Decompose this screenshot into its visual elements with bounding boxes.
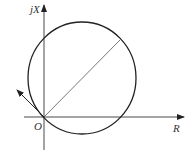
vertical-axis-label: jX	[28, 3, 41, 15]
impedance-diagram: jX R O	[0, 0, 191, 161]
chord-line	[44, 40, 120, 117]
origin-label: O	[34, 120, 42, 132]
horizontal-axis-label: R	[172, 122, 180, 134]
